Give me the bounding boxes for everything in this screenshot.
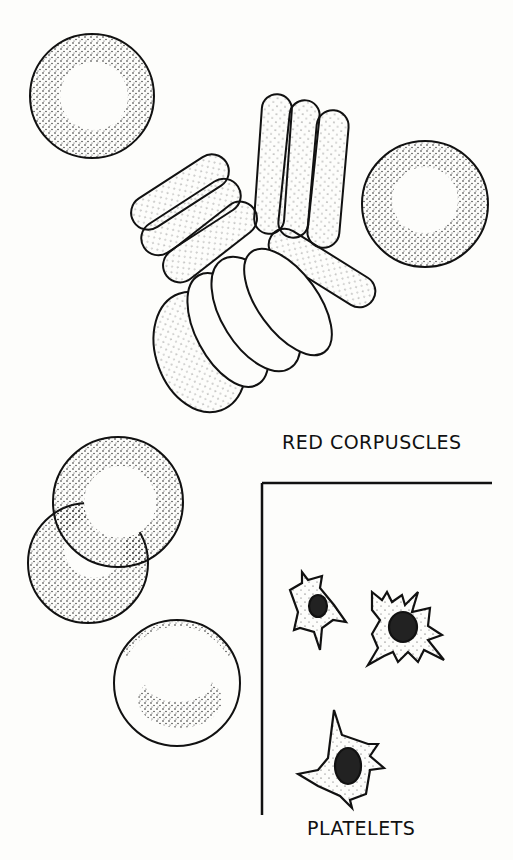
platelet: [290, 572, 346, 650]
red-corpuscle-rouleaux: [125, 93, 382, 425]
red-corpuscle-disc: [53, 437, 183, 567]
red-corpuscle-disc: [362, 141, 488, 267]
platelet: [368, 592, 444, 665]
red-corpuscle-disc: [30, 34, 154, 158]
red-corpuscle-disc: [114, 620, 240, 746]
platelet: [298, 710, 384, 808]
blood-cells-illustration: [0, 0, 513, 860]
red-corpuscles-label: RED CORPUSCLES: [282, 431, 462, 453]
platelets-label: PLATELETS: [307, 817, 415, 839]
